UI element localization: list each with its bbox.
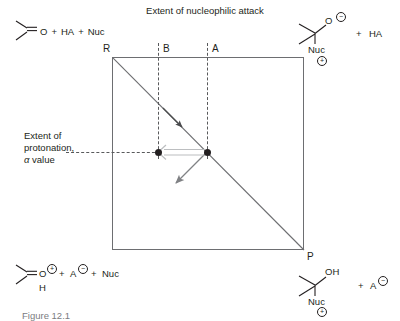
positive-charge-oxygen-bl: + (47, 264, 57, 274)
nucleophile-label-tr: Nuc (308, 44, 325, 55)
dashed-line-b (158, 43, 159, 159)
dashed-line-a (207, 43, 208, 159)
oxygen-label-tr: O (325, 15, 332, 26)
nucleophile-label-bl: Nuc (102, 268, 119, 279)
positive-charge-nuc-br: + (317, 307, 327, 317)
plus-sign-2-bl: + (91, 268, 97, 279)
plus-sign-1-bl: + (59, 268, 65, 279)
annotation-protonation-line2: protonation, (24, 142, 74, 153)
anion-label-bl: A (70, 268, 76, 279)
annotation-nucleophilic-attack: Extent of nucleophilic attack (145, 5, 265, 17)
data-point-a (204, 149, 211, 156)
corner-label-a: A (212, 43, 219, 54)
oxygen-label-tl: O (40, 26, 47, 37)
acid-label-tr: HA (369, 28, 382, 39)
structure-bottom-right: OH Nuc + + A − (296, 262, 396, 314)
structure-top-left: O + HA + Nuc (14, 18, 105, 44)
figure-caption: Figure 12.1 (22, 310, 70, 321)
anion-label-br: A (370, 280, 376, 291)
ketone-skeleton-icon (14, 18, 40, 44)
negative-charge-oxygen-tr: − (336, 12, 346, 22)
structure-bottom-left: O + H + A − + Nuc (14, 258, 134, 300)
plus-sign-1-tl: + (51, 26, 57, 37)
positive-charge-nuc-tr: + (317, 56, 327, 66)
plus-sign-2-tl: + (78, 26, 84, 37)
data-point-b (155, 149, 162, 156)
annotation-protonation-line3: value (29, 154, 54, 165)
annotation-protonation: Extent of protonation, α value (24, 130, 96, 166)
oxygen-label-bl: O (39, 268, 46, 279)
corner-label-p: P (307, 251, 314, 262)
acid-label-tl: HA (61, 26, 74, 37)
plus-sign-tr: + (356, 28, 362, 39)
negative-charge-anion-br: − (378, 276, 388, 286)
structure-top-right: O − Nuc + + HA (296, 8, 394, 64)
corner-label-r: R (103, 43, 110, 54)
negative-charge-anion-bl: − (78, 264, 88, 274)
corner-label-b: B (163, 43, 170, 54)
hydrogen-label-bl: H (39, 282, 46, 293)
hydroxyl-label-br: OH (325, 266, 339, 277)
ketone-skeleton-icon-bl (14, 262, 40, 288)
nucleophile-label-br: Nuc (308, 296, 325, 307)
plus-sign-br: + (358, 280, 364, 291)
annotation-protonation-line1: Extent of (24, 130, 62, 141)
nucleophile-label-tl: Nuc (88, 26, 105, 37)
